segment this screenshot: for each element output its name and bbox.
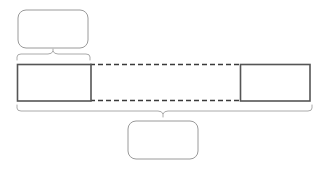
top-brace [17, 51, 90, 60]
top-brace-group [17, 49, 90, 60]
segment-diagram [0, 0, 327, 169]
right-segment-box[interactable] [241, 65, 311, 102]
bottom-brace-group [17, 105, 312, 117]
bottom-brace [17, 105, 312, 114]
right-segment-group[interactable] [241, 65, 311, 102]
bottom-callout-box[interactable] [128, 121, 198, 159]
left-segment-group[interactable] [18, 65, 92, 102]
left-segment-box[interactable] [18, 65, 92, 102]
bottom-callout-group[interactable] [128, 121, 198, 159]
top-callout-group[interactable] [18, 10, 88, 48]
diagram-canvas [0, 0, 327, 169]
top-callout-box[interactable] [18, 10, 88, 48]
